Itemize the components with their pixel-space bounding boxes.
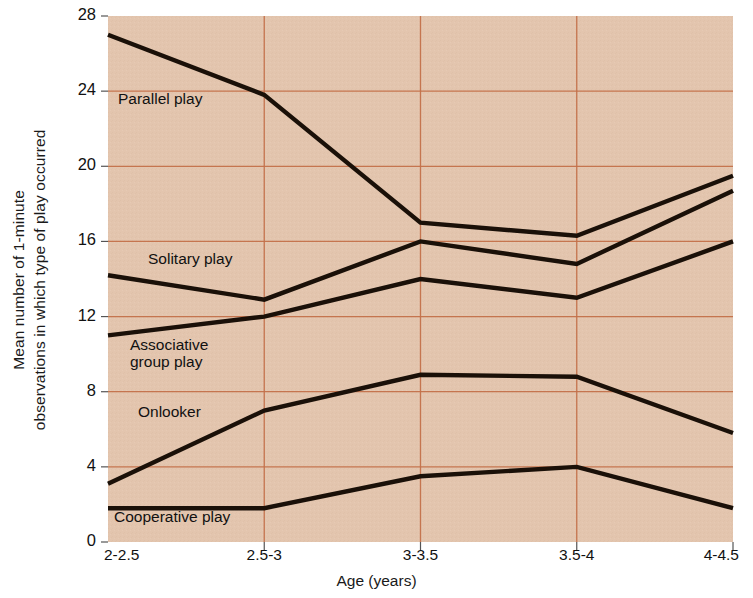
series-label-associative-group-play: Associativegroup play xyxy=(130,336,208,371)
y-tick-label: 28 xyxy=(52,5,96,24)
series-label-parallel-play: Parallel play xyxy=(118,90,202,107)
x-tick-label: 2-2.5 xyxy=(104,546,139,564)
series-label-onlooker: Onlooker xyxy=(138,403,201,420)
series-label-solitary-play: Solitary play xyxy=(148,250,232,267)
chart-figure: Mean number of 1-minute observations in … xyxy=(0,0,753,598)
y-tick-label: 24 xyxy=(52,80,96,99)
y-tick-label: 0 xyxy=(52,531,96,550)
y-tick-label: 20 xyxy=(52,155,96,174)
y-tick-label: 8 xyxy=(52,381,96,400)
x-tick-label: 3-3.5 xyxy=(403,546,438,564)
x-axis-label: Age (years) xyxy=(0,572,753,590)
y-tick-label: 12 xyxy=(52,306,96,325)
x-tick-label: 2.5-3 xyxy=(247,546,282,564)
y-tick-label: 16 xyxy=(52,230,96,249)
y-tick-label: 4 xyxy=(52,456,96,475)
x-tick-label: 3.5-4 xyxy=(559,546,594,564)
series-label-cooperative-play: Cooperative play xyxy=(114,508,230,525)
line-chart-canvas xyxy=(0,0,753,598)
x-tick-label: 4-4.5 xyxy=(704,546,739,564)
